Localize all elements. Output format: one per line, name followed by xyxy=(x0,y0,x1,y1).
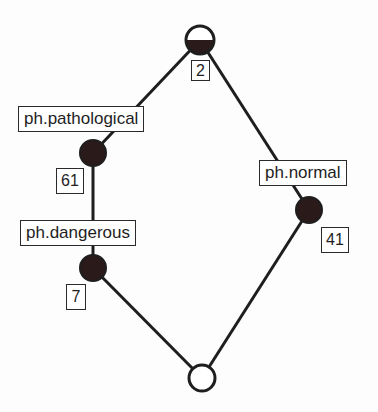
node-dangerous xyxy=(80,255,106,281)
count-pathological: 61 xyxy=(56,168,84,194)
edge-top-pathological xyxy=(93,40,200,153)
lattice-edges-and-nodes xyxy=(0,0,378,412)
node-bottom xyxy=(189,365,215,391)
edge-dangerous-bottom xyxy=(93,268,202,378)
label-pathological: ph.pathological xyxy=(18,106,144,132)
lattice-diagram: 2 ph.pathological 61 ph.dangerous 7 ph.n… xyxy=(0,0,378,412)
edge-normal-bottom xyxy=(202,210,309,378)
node-normal xyxy=(296,197,322,223)
node-top xyxy=(186,26,214,54)
count-normal: 41 xyxy=(321,227,349,253)
count-dangerous: 7 xyxy=(66,284,86,310)
label-dangerous: ph.dangerous xyxy=(20,220,136,246)
node-pathological xyxy=(80,140,106,166)
label-normal: ph.normal xyxy=(259,160,347,186)
count-top: 2 xyxy=(191,60,210,81)
